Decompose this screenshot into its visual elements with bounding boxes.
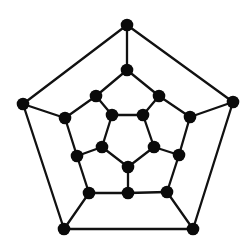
- graph-node: [122, 161, 135, 174]
- graph-node: [58, 223, 71, 236]
- graph-node: [59, 112, 72, 125]
- dodecahedron-graph: [0, 0, 251, 249]
- graph-node: [83, 187, 96, 200]
- graph-edge: [23, 104, 65, 118]
- graph-node: [96, 141, 109, 154]
- graph-node: [17, 98, 30, 111]
- graph-edge: [23, 25, 127, 104]
- graph-node: [121, 64, 134, 77]
- graph-node: [153, 90, 166, 103]
- graph-edge: [193, 102, 233, 229]
- graph-node: [71, 150, 84, 163]
- graph-edge: [127, 25, 233, 102]
- graph-node: [106, 109, 119, 122]
- graph-node: [173, 149, 186, 162]
- graph-edge: [167, 192, 193, 229]
- graph-node: [187, 223, 200, 236]
- graph-edge: [64, 193, 89, 229]
- graph-edge: [190, 102, 233, 117]
- graph-node: [161, 186, 174, 199]
- graph-edge: [23, 104, 64, 229]
- graph-node: [121, 19, 134, 32]
- graph-node: [122, 187, 135, 200]
- graph-node: [184, 111, 197, 124]
- graph-node: [148, 141, 161, 154]
- graph-node: [90, 90, 103, 103]
- graph-node: [227, 96, 240, 109]
- graph-node: [137, 109, 150, 122]
